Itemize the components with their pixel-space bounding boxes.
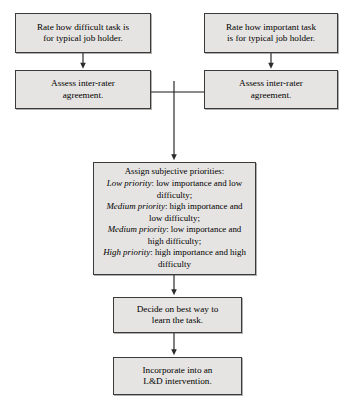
node-assign-subjective-priorities: Assign subjective priorities: Low priori… <box>93 162 256 275</box>
node-decide-on-best-way: Decide on best way tolearn the task. <box>113 297 242 333</box>
priorities-heading: Assign subjective priorities: <box>125 166 225 176</box>
priority-rest-0: : low importance and low difficulty; <box>151 178 242 200</box>
priority-emphasis-0: Low priority <box>107 178 152 188</box>
node-rate-how-important-label: Rate how important taskis for typical jo… <box>209 22 333 44</box>
node-assess-inter-rater-agreement-left-label: Assess inter-rateragreement. <box>20 78 146 100</box>
node-rate-how-difficult: Rate how difficult task isfor typical jo… <box>15 13 151 53</box>
node-decide-on-best-way-label: Decide on best way tolearn the task. <box>118 304 237 326</box>
node-rate-how-important: Rate how important taskis for typical jo… <box>204 13 338 53</box>
node-assess-inter-rater-agreement-right-label: Assess inter-rateragreement. <box>209 78 333 100</box>
priority-emphasis-3: High priority <box>103 247 150 257</box>
priority-emphasis-1: Medium priority <box>106 201 164 211</box>
priority-rest-3: : high importance and high difficulty <box>150 247 246 269</box>
node-incorporate-into-intervention: Incorporate into anL&D intervention. <box>113 357 242 395</box>
node-assign-subjective-priorities-label: Assign subjective priorities: Low priori… <box>98 166 251 270</box>
flowchart-diagram: Rate how difficult task isfor typical jo… <box>0 0 348 405</box>
node-assess-inter-rater-agreement-right: Assess inter-rateragreement. <box>204 70 338 109</box>
priority-emphasis-2: Medium priority <box>108 224 166 234</box>
node-assess-inter-rater-agreement-left: Assess inter-rateragreement. <box>15 70 151 109</box>
node-incorporate-into-intervention-label: Incorporate into anL&D intervention. <box>118 365 237 387</box>
node-rate-how-difficult-label: Rate how difficult task isfor typical jo… <box>20 22 146 44</box>
